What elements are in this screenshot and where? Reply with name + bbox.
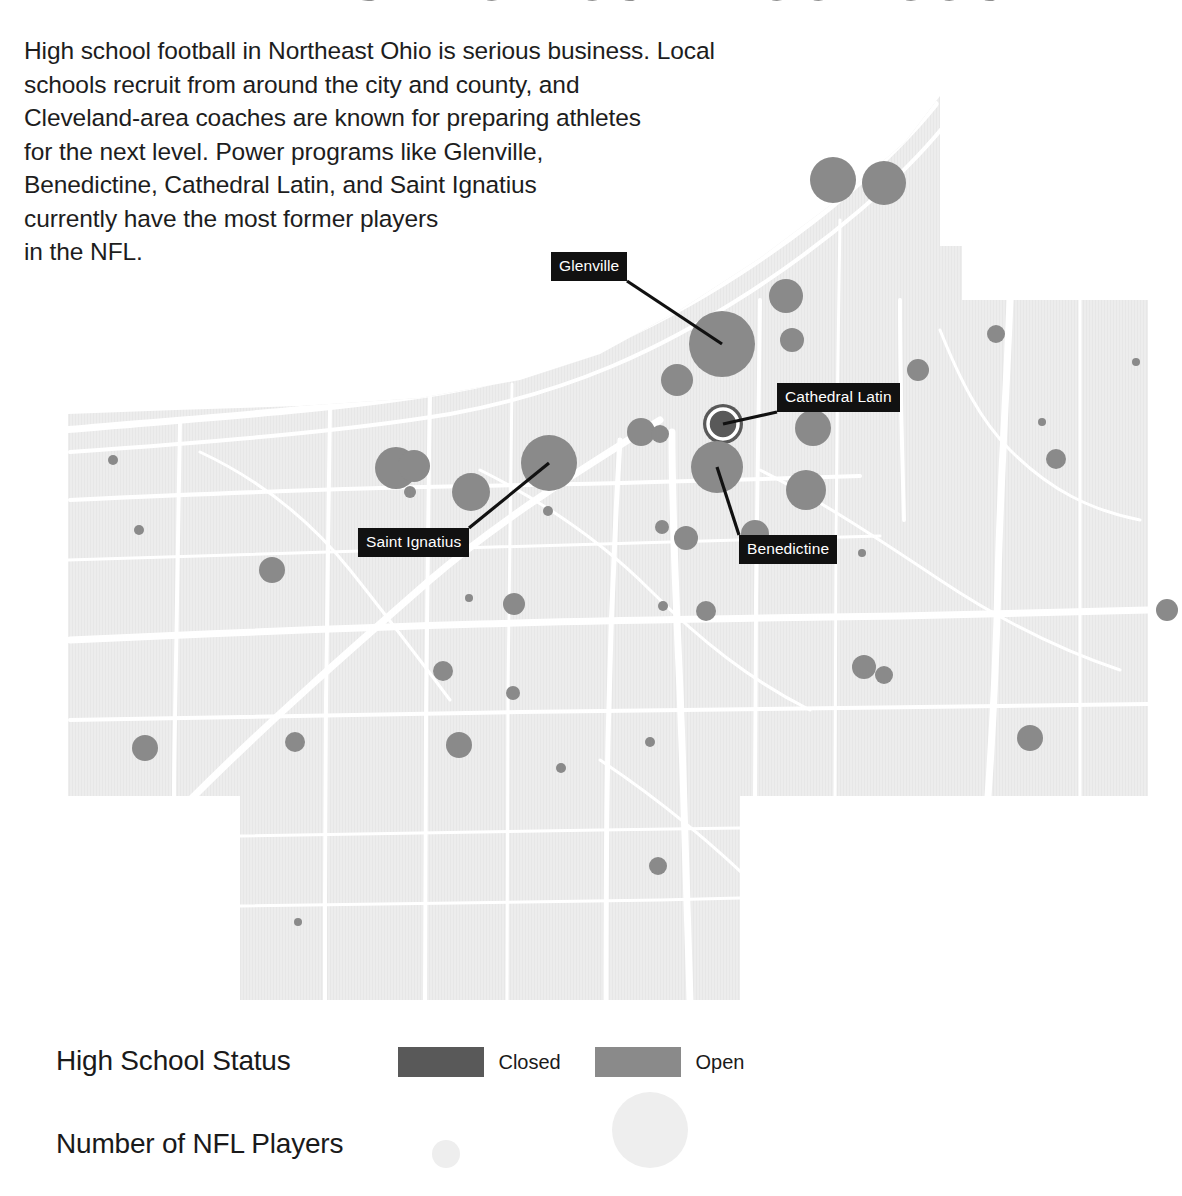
school-marker[interactable] [506,686,520,700]
school-marker[interactable] [452,473,490,511]
legend-size-circles [400,1068,760,1196]
school-marker[interactable] [285,732,305,752]
school-marker[interactable] [696,601,716,621]
school-marker[interactable] [259,557,285,583]
school-marker[interactable] [134,525,144,535]
school-marker[interactable] [658,601,668,611]
school-marker[interactable] [1132,358,1140,366]
school-marker[interactable] [1156,599,1178,621]
school-marker[interactable] [862,161,906,205]
legend-status-row: High School Status [56,1045,291,1077]
school-marker[interactable] [858,549,866,557]
legend: High School Status Closed Open Number of… [0,1020,1182,1196]
legend-circle-small [432,1140,460,1168]
school-marker[interactable] [404,486,416,498]
school-marker[interactable] [769,279,803,313]
callout-label[interactable]: Cathedral Latin [777,383,900,412]
school-marker[interactable] [674,526,698,550]
school-marker[interactable] [446,732,472,758]
legend-size-row: Number of NFL Players [56,1128,343,1160]
school-marker[interactable] [649,857,667,875]
school-marker[interactable] [1046,449,1066,469]
school-marker[interactable] [795,410,831,446]
legend-circle-large [612,1092,688,1168]
school-marker[interactable] [655,520,669,534]
legend-status-title: High School Status [56,1045,291,1076]
school-marker[interactable] [627,418,655,446]
school-marker[interactable] [661,364,693,396]
school-marker[interactable] [852,655,876,679]
school-marker[interactable] [907,359,929,381]
school-marker[interactable] [294,918,302,926]
school-marker[interactable] [651,425,669,443]
school-marker[interactable] [780,328,804,352]
legend-size-title: Number of NFL Players [56,1128,343,1159]
school-marker[interactable] [433,661,453,681]
callout-label[interactable]: Benedictine [739,535,837,564]
school-marker[interactable] [556,763,566,773]
school-marker[interactable] [1038,418,1046,426]
school-marker[interactable] [875,666,893,684]
school-marker[interactable] [987,325,1005,343]
school-marker[interactable] [786,470,826,510]
callout-label[interactable]: Saint Ignatius [358,528,469,557]
school-marker[interactable] [398,450,430,482]
school-marker[interactable] [503,593,525,615]
school-marker[interactable] [132,735,158,761]
school-marker[interactable] [465,594,473,602]
school-marker[interactable] [543,506,553,516]
school-marker[interactable] [645,737,655,747]
school-marker[interactable] [108,455,118,465]
school-marker[interactable] [1017,725,1043,751]
intro-paragraph: High school football in Northeast Ohio i… [24,34,824,269]
